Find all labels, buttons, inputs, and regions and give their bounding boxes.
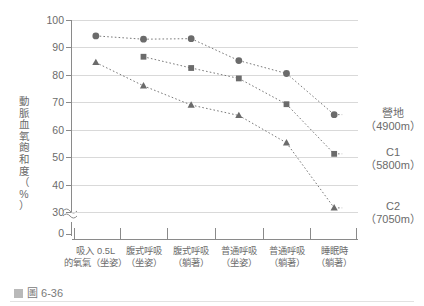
series-2 xyxy=(141,54,343,157)
legend-item-label: 營地 xyxy=(362,107,424,120)
series-layer xyxy=(72,20,358,212)
figure-icon xyxy=(14,289,23,298)
plot-area xyxy=(72,20,358,212)
series-segment xyxy=(287,73,335,114)
x-axis-tick xyxy=(167,228,168,240)
x-axis-tick xyxy=(356,228,357,240)
x-axis-tick xyxy=(215,228,216,240)
y-tick-label: 60 xyxy=(34,125,64,136)
x-axis-tick xyxy=(120,228,121,240)
y-tick-label: 90 xyxy=(34,42,64,53)
series-segment xyxy=(191,68,239,78)
series-segment xyxy=(96,36,144,39)
data-point-circle xyxy=(140,36,147,43)
x-axis-bracket xyxy=(72,228,358,240)
legend-item: C2（7050m） xyxy=(362,200,424,226)
series-segment xyxy=(191,105,239,115)
series-segment xyxy=(144,39,192,40)
data-point-circle xyxy=(188,35,195,42)
y-tick-label: 50 xyxy=(34,152,64,163)
y-tick-label: 80 xyxy=(34,70,64,81)
y-tick-label: 40 xyxy=(34,180,64,191)
data-point-triangle xyxy=(188,101,195,107)
y-tick-label: 30 xyxy=(34,207,64,218)
data-point-square xyxy=(188,65,194,71)
x-tick-label-line2: （躺著） xyxy=(297,257,371,269)
data-point-circle xyxy=(92,33,99,40)
data-point-circle xyxy=(283,70,290,77)
y-tick-label-zero: 0 xyxy=(34,228,64,239)
legend-item: C1（5800m） xyxy=(362,146,424,172)
data-point-square xyxy=(284,101,290,107)
data-point-triangle xyxy=(92,59,99,65)
y-axis-title: 動脈血氧飽和度（%） xyxy=(14,96,34,212)
x-tick-label: 睡眠時（躺著） xyxy=(297,245,371,269)
data-point-square xyxy=(331,151,337,157)
y-axis-title-char: 和 xyxy=(14,154,34,166)
series-segment xyxy=(287,104,335,154)
legend-item-altitude: （5800m） xyxy=(362,159,424,172)
data-point-triangle xyxy=(283,139,290,145)
series-segment xyxy=(239,61,287,74)
y-axis-tick xyxy=(66,20,71,21)
data-point-square xyxy=(141,54,147,60)
gridline xyxy=(72,212,358,213)
series-segment xyxy=(96,63,144,86)
y-axis-tick xyxy=(66,185,71,186)
figure-root: 動脈血氧飽和度（%） 100908070605040300 吸入 0.5L的氧氣… xyxy=(0,0,424,306)
data-point-circle xyxy=(331,111,338,118)
y-axis-tick xyxy=(66,157,71,158)
y-tick-label: 70 xyxy=(34,97,64,108)
series-segment xyxy=(144,57,192,68)
series-3 xyxy=(92,59,342,211)
series-segment xyxy=(239,78,287,104)
series-segment xyxy=(191,39,239,61)
y-axis-title-char: ） xyxy=(14,200,34,212)
x-axis-tick xyxy=(263,228,264,240)
series-segment xyxy=(144,86,192,105)
y-tick-label: 100 xyxy=(34,15,64,26)
bottom-divider xyxy=(10,301,414,302)
y-axis-tick xyxy=(66,47,71,48)
legend-item-label: C2 xyxy=(362,200,424,213)
series-1 xyxy=(92,33,342,119)
x-axis-tick xyxy=(74,228,75,240)
data-point-circle xyxy=(235,57,242,64)
figure-caption: 圖 6-36 xyxy=(14,284,63,300)
legend-item-altitude: （4900m） xyxy=(362,120,424,133)
figure-caption-text: 圖 6-36 xyxy=(27,287,63,299)
y-axis-tick xyxy=(66,102,71,103)
y-axis-title-char: 動 xyxy=(14,96,34,108)
series-segment xyxy=(239,115,287,142)
x-tick-label-line1: 睡眠時 xyxy=(321,246,348,256)
y-axis-tick xyxy=(66,130,71,131)
data-point-triangle xyxy=(140,82,147,88)
x-axis-tick xyxy=(310,228,311,240)
legend-item-altitude: （7050m） xyxy=(362,213,424,226)
series-segment xyxy=(287,143,335,208)
y-axis-title-char: （ xyxy=(14,177,34,189)
legend-item-label: C1 xyxy=(362,146,424,159)
data-point-square xyxy=(236,76,242,82)
legend-item: 營地（4900m） xyxy=(362,107,424,133)
y-axis-tick xyxy=(66,75,71,76)
